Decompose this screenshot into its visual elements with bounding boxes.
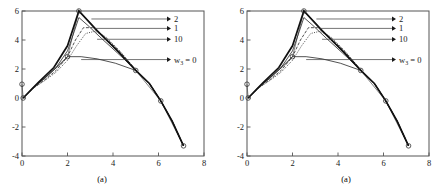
y-axis-tick-label: 4 (15, 35, 20, 45)
annotation-label: w3 = 0 (174, 55, 196, 66)
annotation-arrowhead-icon (167, 17, 171, 22)
annotation-arrowhead-icon (392, 37, 396, 42)
annotation-arrowhead-icon (392, 57, 396, 62)
annotation-arrowhead-icon (392, 26, 396, 31)
plot-panel-left: 02468-4-202462110w3 = 0 (a) (0, 0, 218, 188)
annotation-label: 1 (174, 23, 178, 33)
y-axis-tick-label: -4 (237, 151, 245, 161)
x-axis-tick-label: 4 (111, 158, 116, 168)
plot-panel-right: 02468-4-202462110w3 = 0 (a) (218, 0, 436, 188)
curve-1 (23, 28, 183, 146)
curve-upper-envelope (23, 11, 183, 146)
y-axis-tick-label: -2 (237, 122, 244, 132)
y-axis-tick-label: -4 (12, 151, 20, 161)
panel-caption-right: (a) (341, 174, 350, 184)
curve-upper-envelope (248, 11, 408, 146)
x-axis-tick-label: 0 (245, 158, 249, 168)
plot-svg-right: 02468-4-202462110w3 = 0 (218, 0, 436, 188)
y-axis-tick-label: 4 (240, 35, 245, 45)
annotation-label: 10 (174, 34, 183, 44)
curve-10 (23, 31, 183, 146)
figure-container: 02468-4-202462110w3 = 0 (a) 02468-4-2024… (0, 0, 436, 188)
curve-1 (248, 28, 408, 146)
y-axis-tick-label: 0 (15, 93, 19, 103)
curve-10 (248, 31, 408, 146)
x-axis-tick-label: 6 (381, 158, 385, 168)
curve-w3-0 (248, 57, 408, 146)
x-axis-tick-label: 4 (336, 158, 341, 168)
x-axis-tick-label: 6 (156, 158, 160, 168)
annotation-label: w3 = 0 (399, 55, 421, 66)
x-axis-tick-label: 2 (290, 158, 294, 168)
curve-w3-0 (23, 57, 183, 146)
y-axis-tick-label: 2 (240, 64, 244, 74)
annotation-arrowhead-icon (167, 57, 171, 62)
y-axis-tick-label: 2 (15, 64, 19, 74)
plot-svg-left: 02468-4-202462110w3 = 0 (0, 0, 218, 188)
y-axis-tick-label: -2 (12, 122, 19, 132)
y-axis-tick-label: 0 (240, 93, 244, 103)
annotation-label: 10 (399, 34, 408, 44)
annotation-arrowhead-icon (167, 37, 171, 42)
y-axis-tick-label: 6 (15, 6, 19, 16)
x-axis-tick-label: 2 (65, 158, 69, 168)
annotation-arrowhead-icon (392, 17, 396, 22)
x-axis-tick-label: 8 (427, 158, 431, 168)
x-axis-tick-label: 8 (202, 158, 206, 168)
annotation-arrowhead-icon (167, 26, 171, 31)
panel-caption-left: (a) (97, 174, 106, 184)
y-axis-tick-label: 6 (240, 6, 244, 16)
x-axis-tick-label: 0 (20, 158, 24, 168)
annotation-label: 1 (399, 23, 403, 33)
